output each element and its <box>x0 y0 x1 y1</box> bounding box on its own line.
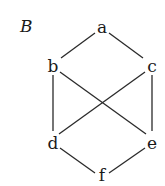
edge-a-c <box>109 33 143 58</box>
node-e: e <box>147 133 157 153</box>
edge-e-f <box>109 148 145 173</box>
node-f: f <box>99 165 107 185</box>
node-c: c <box>147 56 157 76</box>
node-d: d <box>48 133 59 153</box>
hasse-diagram: B a b c d e f <box>0 0 165 186</box>
edges <box>53 33 152 173</box>
edge-d-f <box>60 148 95 173</box>
node-b: b <box>48 56 59 76</box>
edge-a-b <box>61 33 95 58</box>
node-a: a <box>97 17 107 37</box>
diagram-title: B <box>19 16 33 36</box>
